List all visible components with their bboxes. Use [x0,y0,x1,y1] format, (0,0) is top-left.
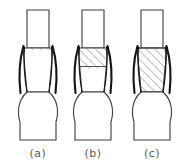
caption-c: (c) [132,147,172,160]
upper-stem-a [27,10,49,48]
figure-panel-b [63,0,123,145]
caption-b: (b) [73,147,113,160]
upper-stem-b [82,10,104,48]
hatched-region-a [23,48,53,50]
caption-row: (a) (b) (c) [0,145,182,168]
upper-stem-c [141,10,163,48]
hatched-region-b [76,48,110,69]
caption-a: (a) [18,147,58,160]
lower-bulge-b [73,92,112,140]
lower-bulge-c [132,92,171,140]
figure-panel-c [122,0,182,145]
lower-bulge-a [18,92,57,140]
figure-panel-a [8,0,68,145]
deformation-zone-a [23,48,53,92]
forming-stages-figure: (a) (b) (c) [0,0,182,168]
